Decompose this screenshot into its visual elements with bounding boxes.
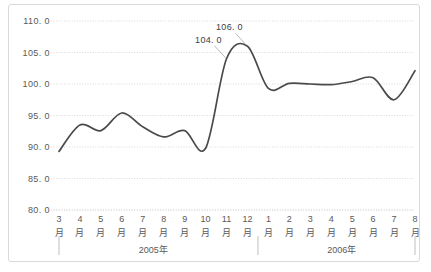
x-axis-month-number: 8 bbox=[155, 214, 173, 224]
x-axis-month-suffix: 月 bbox=[385, 226, 403, 239]
x-axis-month-suffix: 月 bbox=[301, 226, 319, 239]
x-axis-month-suffix: 月 bbox=[50, 226, 68, 239]
x-axis-month-number: 4 bbox=[71, 214, 89, 224]
y-axis-label: 80. 0 bbox=[10, 205, 50, 215]
x-axis-month-number: 1 bbox=[259, 214, 277, 224]
y-axis-label: 100. 0 bbox=[10, 79, 50, 89]
x-axis-month-suffix: 月 bbox=[343, 226, 361, 239]
x-axis-month-suffix: 月 bbox=[322, 226, 340, 239]
annotation-leader-0 bbox=[215, 46, 226, 58]
x-axis-group-label-2: 2006年 bbox=[327, 243, 356, 256]
x-axis-month-number: 12 bbox=[238, 214, 256, 224]
x-axis-month-number: 11 bbox=[218, 214, 236, 224]
data-series-line bbox=[59, 43, 415, 151]
x-axis-month-number: 7 bbox=[385, 214, 403, 224]
x-axis-month-number: 6 bbox=[113, 214, 131, 224]
x-axis-month-number: 10 bbox=[197, 214, 215, 224]
y-axis-label: 90. 0 bbox=[10, 142, 50, 152]
x-axis-month-suffix: 月 bbox=[280, 226, 298, 239]
x-axis-month-suffix: 月 bbox=[218, 226, 236, 239]
x-axis-month-suffix: 月 bbox=[238, 226, 256, 239]
x-axis-month-number: 6 bbox=[364, 214, 382, 224]
x-axis-month-suffix: 月 bbox=[71, 226, 89, 239]
data-label: 106. 0 bbox=[216, 22, 243, 32]
x-axis-month-number: 3 bbox=[301, 214, 319, 224]
x-axis-month-suffix: 月 bbox=[197, 226, 215, 239]
x-axis-month-suffix: 月 bbox=[406, 226, 424, 239]
y-axis-label: 95. 0 bbox=[10, 111, 50, 121]
x-axis-month-number: 5 bbox=[92, 214, 110, 224]
x-axis-month-number: 9 bbox=[176, 214, 194, 224]
x-axis-month-suffix: 月 bbox=[92, 226, 110, 239]
x-axis-month-suffix: 月 bbox=[134, 226, 152, 239]
x-axis-month-number: 5 bbox=[343, 214, 361, 224]
x-axis-group-label-1: 2005年 bbox=[139, 243, 168, 256]
x-axis-month-suffix: 月 bbox=[259, 226, 277, 239]
x-axis-month-number: 8 bbox=[406, 214, 424, 224]
x-axis-month-suffix: 月 bbox=[364, 226, 382, 239]
x-axis-month-number: 3 bbox=[50, 214, 68, 224]
x-axis-month-number: 4 bbox=[322, 214, 340, 224]
y-axis-label: 110. 0 bbox=[10, 16, 50, 26]
x-axis-month-suffix: 月 bbox=[176, 226, 194, 239]
x-axis-month-number: 7 bbox=[134, 214, 152, 224]
x-axis-month-suffix: 月 bbox=[113, 226, 131, 239]
y-axis-label: 105. 0 bbox=[10, 48, 50, 58]
x-axis-month-suffix: 月 bbox=[155, 226, 173, 239]
y-axis-label: 85. 0 bbox=[10, 174, 50, 184]
x-axis-month-number: 2 bbox=[280, 214, 298, 224]
data-label: 104. 0 bbox=[195, 35, 222, 45]
